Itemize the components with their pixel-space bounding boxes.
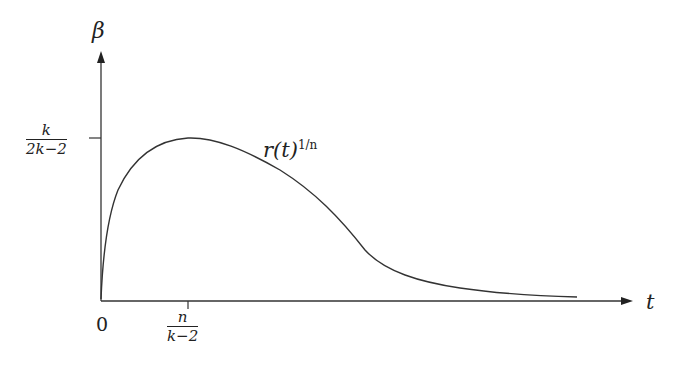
- x-tick-denominator: k−2: [167, 328, 198, 344]
- y-tick-label: k 2k−2: [26, 122, 67, 157]
- curve-r-t: [101, 138, 577, 299]
- x-axis-arrow-icon: [621, 297, 633, 305]
- y-axis-label: β: [92, 18, 105, 43]
- y-tick-denominator: 2k−2: [26, 141, 67, 157]
- curve-label-exponent: 1/n: [298, 138, 317, 152]
- curve-label-base: r(t): [263, 138, 298, 162]
- plot-canvas: [0, 0, 680, 365]
- x-axis-label: t: [646, 290, 654, 314]
- x-tick-numerator: n: [176, 309, 190, 325]
- y-axis-arrow-icon: [97, 51, 105, 63]
- x-tick-label: n k−2: [167, 309, 198, 344]
- origin-label: 0: [96, 313, 108, 335]
- curve-label: r(t)1/n: [263, 138, 317, 162]
- y-tick-numerator: k: [40, 122, 53, 138]
